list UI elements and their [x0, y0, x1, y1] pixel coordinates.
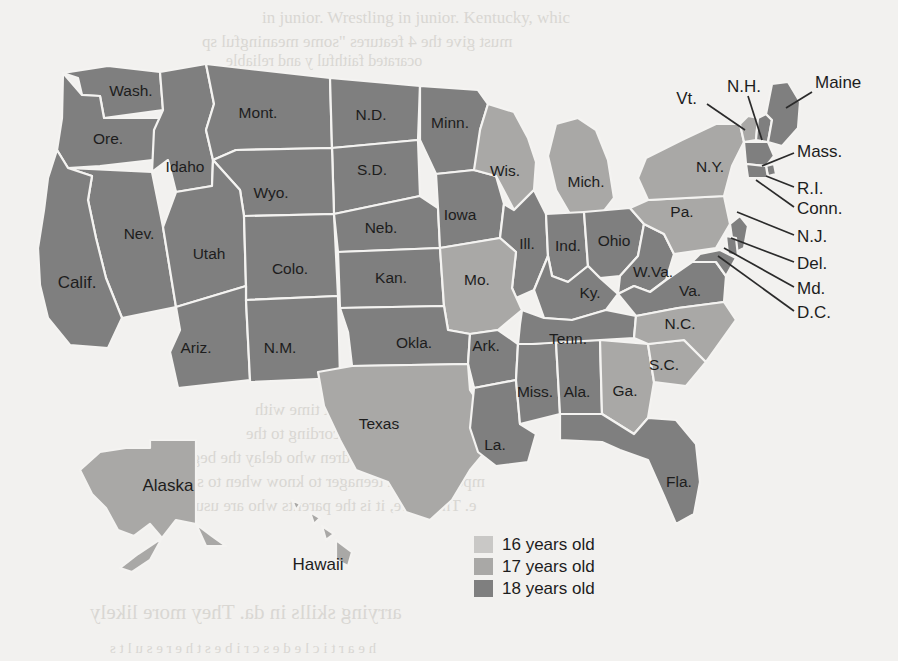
callout-label-new-hampshire: N.H.: [727, 77, 761, 96]
callout-label-new-jersey: N.J.: [797, 227, 827, 246]
state-label-colorado: Colo.: [272, 260, 308, 277]
state-label-new-mexico: N.M.: [264, 339, 297, 356]
us-choropleth-map: Wash.Ore.IdahoMont.N.D.Minn.S.D.Wyo.Nev.…: [0, 0, 898, 661]
state-label-oregon: Ore.: [93, 130, 123, 147]
state-label-montana: Mont.: [239, 104, 278, 121]
state-label-utah: Utah: [193, 245, 226, 262]
map-legend: 16 years old17 years old18 years old: [474, 535, 595, 598]
state-label-michigan: Mich.: [567, 173, 604, 190]
state-texas: [318, 364, 490, 520]
legend-item-age18: 18 years old: [474, 579, 595, 598]
state-label-kansas: Kan.: [375, 269, 407, 286]
state-label-virginia: Va.: [679, 282, 701, 299]
legend-label-age17: 17 years old: [502, 557, 595, 576]
callout-label-rhode-island: R.I.: [797, 179, 823, 198]
legend-item-age16: 16 years old: [474, 535, 595, 554]
callout-label-vermont: Vt.: [676, 89, 697, 108]
state-label-georgia: Ga.: [613, 382, 638, 399]
state-label-illinois: Ill.: [519, 235, 535, 252]
figure-canvas: in junior. Wrestling in junior. Kentucky…: [0, 0, 898, 661]
state-label-tennessee: Tenn.: [549, 330, 587, 347]
callout-label-delaware: Del.: [797, 254, 827, 273]
callout-label-maine: Maine: [815, 73, 861, 92]
state-maine: [766, 82, 800, 146]
legend-swatch-age18: [474, 580, 493, 597]
state-connecticut: [746, 164, 768, 178]
state-label-washington: Wash.: [109, 82, 152, 99]
state-colorado: [244, 214, 338, 300]
state-label-nevada: Nev.: [124, 225, 155, 242]
state-alaska: [80, 440, 226, 572]
callout-label-connecticut: Conn.: [797, 199, 842, 218]
legend-label-age18: 18 years old: [502, 579, 595, 598]
state-label-alaska: Alaska: [142, 476, 194, 495]
state-label-oklahoma: Okla.: [396, 334, 432, 351]
callout-label-massachusetts: Mass.: [797, 142, 842, 161]
state-label-missouri: Mo.: [464, 271, 490, 288]
state-label-minnesota: Minn.: [431, 114, 469, 131]
state-label-pennsylvania: Pa.: [670, 203, 693, 220]
state-label-arkansas: Ark.: [472, 337, 500, 354]
callout-label-maryland: Md.: [797, 279, 825, 298]
legend-swatch-age17: [474, 558, 493, 575]
state-label-wisconsin: Wis.: [490, 162, 520, 179]
state-label-indiana: Ind.: [555, 237, 581, 254]
state-label-idaho: Idaho: [166, 158, 205, 175]
state-label-arizona: Ariz.: [181, 339, 212, 356]
state-label-texas: Texas: [359, 415, 400, 432]
state-label-louisiana: La.: [484, 436, 506, 453]
leader-line-district-of-columbia: [718, 256, 794, 311]
state-label-west-virginia: W.Va.: [633, 263, 673, 280]
state-label-kentucky: Ky.: [579, 284, 600, 301]
state-label-alabama: Ala.: [564, 383, 591, 400]
leader-line-rhode-island: [766, 176, 794, 187]
state-label-new-york: N.Y.: [696, 158, 724, 175]
state-label-hawaii: Hawaii: [292, 555, 343, 574]
state-label-nebraska: Neb.: [365, 219, 398, 236]
legend-label-age16: 16 years old: [502, 535, 595, 554]
state-label-iowa: Iowa: [444, 206, 477, 223]
state-label-california: Calif.: [58, 273, 97, 292]
state-florida: [560, 414, 700, 524]
state-alabama: [556, 340, 602, 414]
state-label-south-carolina: S.C.: [649, 356, 679, 373]
state-label-mississippi: Miss.: [517, 383, 553, 400]
state-michigan: [548, 118, 614, 216]
legend-item-age17: 17 years old: [474, 557, 595, 576]
state-label-north-dakota: N.D.: [356, 106, 387, 123]
state-label-ohio: Ohio: [598, 232, 631, 249]
legend-swatch-age16: [474, 536, 493, 553]
state-label-florida: Fla.: [666, 473, 692, 490]
state-label-south-dakota: S.D.: [357, 161, 387, 178]
state-new-york: [638, 124, 744, 200]
state-label-wyoming: Wyo.: [253, 184, 288, 201]
callout-label-district-of-columbia: D.C.: [797, 303, 831, 322]
state-label-north-carolina: N.C.: [665, 315, 696, 332]
